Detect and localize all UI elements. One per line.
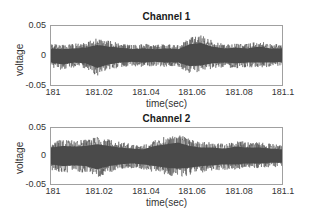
x-tick: 181 [33, 87, 73, 97]
channel-2-panel: Channel 2 voltage 0.05 0 -0.05 181 181.0… [0, 112, 309, 224]
plot-area [50, 25, 283, 86]
y-tick: 0.05 [6, 122, 46, 132]
signal-trace [51, 128, 282, 184]
plot-area [50, 127, 283, 185]
y-tick: 0.05 [6, 20, 46, 30]
x-tick: 181.1 [263, 186, 303, 196]
x-tick: 181.06 [172, 87, 212, 97]
channel-1-panel: Channel 1 voltage 0.05 0 -0.05 181 181.0… [0, 0, 309, 112]
y-tick: 0 [6, 150, 46, 160]
x-tick: 181.02 [79, 186, 119, 196]
signal-trace [51, 26, 282, 85]
y-tick: 0 [6, 50, 46, 60]
x-tick: 181 [33, 186, 73, 196]
x-tick: 181.02 [79, 87, 119, 97]
x-axis-label: time(sec) [50, 197, 283, 208]
x-tick: 181.08 [219, 186, 259, 196]
x-tick: 181.06 [172, 186, 212, 196]
chart-title: Channel 1 [50, 11, 283, 22]
x-tick: 181.1 [263, 87, 303, 97]
x-tick: 181.08 [219, 87, 259, 97]
x-tick: 181.04 [126, 87, 166, 97]
x-tick: 181.04 [126, 186, 166, 196]
chart-title: Channel 2 [50, 113, 283, 124]
x-axis-label: time(sec) [50, 98, 283, 109]
